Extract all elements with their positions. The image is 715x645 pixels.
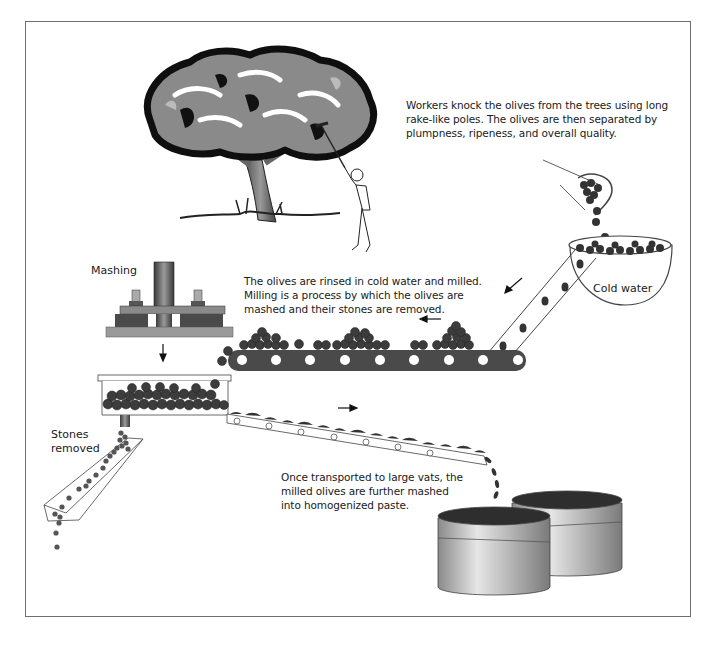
- stones-label-line2: removed: [51, 442, 100, 456]
- milling-box-icon: [98, 375, 231, 427]
- cold-water-label: Cold water: [593, 282, 652, 295]
- process-illustration: [0, 0, 715, 645]
- incline-chute-icon: [482, 250, 596, 360]
- mashing-label: Mashing: [91, 264, 137, 277]
- conveyor-belt-icon: [218, 322, 527, 372]
- arrow-left-icon: [420, 316, 441, 322]
- arrow-right-icon: [338, 405, 357, 411]
- stones-label-line1: Stones: [51, 428, 100, 442]
- harvest-caption: Workers knock the olives from the trees …: [406, 98, 691, 140]
- rinse-mill-caption: The olives are rinsed in cold water and …: [244, 274, 484, 316]
- stones-removed-label: Stones removed: [51, 428, 100, 456]
- vats-caption: Once transported to large vats, the mill…: [281, 470, 469, 512]
- arrow-down-icon: [160, 344, 166, 361]
- arrow-down-left-icon: [505, 278, 522, 293]
- olive-tree-icon: [147, 49, 373, 222]
